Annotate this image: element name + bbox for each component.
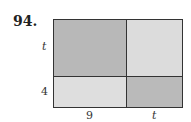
area-model-rectangle [53, 19, 183, 108]
region-4-by-t [127, 77, 182, 107]
horizontal-divider [54, 76, 182, 77]
region-t-by-t [127, 20, 182, 77]
region-t-by-9 [54, 20, 127, 77]
vertical-divider [126, 20, 127, 107]
label-bottom-right: t [152, 109, 156, 122]
problem-number: 94. [13, 13, 37, 29]
label-bottom-left: 9 [86, 109, 93, 122]
label-left-bottom: 4 [41, 85, 48, 98]
region-4-by-9 [54, 77, 127, 107]
label-left-top: t [42, 40, 46, 53]
